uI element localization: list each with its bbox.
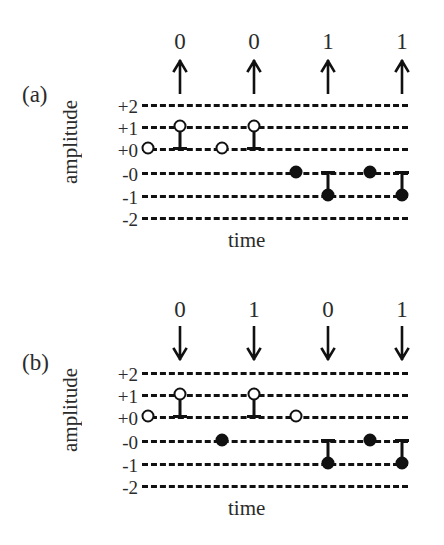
sample-dot	[216, 142, 229, 155]
panel-a-bit-row: 0011	[142, 30, 408, 54]
marker-stem-foot	[321, 171, 335, 174]
arrow-down-icon	[393, 326, 411, 362]
bit-value: 0	[174, 298, 186, 321]
panel-b-bit-row: 0101	[142, 298, 408, 322]
gridline-+2: +2	[142, 372, 408, 375]
gridline-+2: +2	[142, 104, 408, 107]
y-tick-label--1: -1	[122, 456, 138, 475]
arrow-up-icon	[319, 58, 337, 94]
arrow-down-icon	[245, 326, 263, 362]
y-tick-label-+2: +2	[118, 365, 138, 384]
sample-marker-filled	[396, 189, 409, 202]
panel-a-plot-area: +2+1+0-0-1-2	[142, 104, 408, 218]
sample-marker-open	[216, 142, 229, 155]
sample-dot	[142, 410, 155, 423]
arrow-down-icon	[171, 326, 189, 362]
sample-dot	[364, 166, 377, 179]
sample-dot	[174, 120, 187, 133]
gridline--1: -1	[142, 195, 408, 198]
bit-value: 1	[322, 30, 334, 53]
sample-marker-open	[290, 410, 303, 423]
gridline--1: -1	[142, 463, 408, 466]
y-tick-label-+2: +2	[118, 97, 138, 116]
arrow-down-icon	[319, 326, 337, 362]
marker-stem-foot	[247, 147, 261, 150]
y-tick-label--1: -1	[122, 188, 138, 207]
bit-value: 1	[396, 30, 408, 53]
marker-stem-foot	[321, 439, 335, 442]
sample-dot	[290, 410, 303, 423]
sample-marker-open	[248, 388, 261, 401]
sample-marker-open	[142, 410, 155, 423]
sample-marker-filled	[322, 457, 335, 470]
panel-a: (a) amplitude time 0011 +2+1+0-0-1-2	[0, 0, 444, 272]
panel-a-x-axis-title: time	[228, 228, 265, 253]
bit-value: 0	[248, 30, 260, 53]
arrow-up-icon	[171, 58, 189, 94]
sample-marker-filled	[322, 189, 335, 202]
sample-dot	[396, 189, 409, 202]
arrow-up-icon	[393, 58, 411, 94]
y-tick-label-+1: +1	[118, 387, 138, 406]
bit-value: 0	[322, 298, 334, 321]
marker-stem-foot	[395, 171, 409, 174]
sample-marker-filled	[290, 166, 303, 179]
sample-marker-open	[248, 120, 261, 133]
sample-dot	[322, 457, 335, 470]
sample-dot	[322, 189, 335, 202]
marker-stem-foot	[173, 415, 187, 418]
panel-b-y-axis-title: amplitude	[58, 368, 83, 452]
panel-b-arrow-row	[142, 326, 408, 364]
y-tick-label--0: -0	[122, 165, 138, 184]
sample-marker-filled	[396, 457, 409, 470]
sample-marker-open	[142, 142, 155, 155]
panel-b-plot-area: +2+1+0-0-1-2	[142, 372, 408, 486]
gridline--2: -2	[142, 485, 408, 488]
marker-stem-foot	[395, 439, 409, 442]
marker-stem-foot	[247, 415, 261, 418]
sample-marker-open	[174, 388, 187, 401]
sample-marker-filled	[216, 434, 229, 447]
marker-stem-foot	[173, 147, 187, 150]
sample-dot	[290, 166, 303, 179]
sample-dot	[174, 388, 187, 401]
y-tick-label--2: -2	[122, 478, 138, 497]
panel-a-arrow-row	[142, 58, 408, 96]
y-tick-label--2: -2	[122, 210, 138, 229]
bit-value: 1	[396, 298, 408, 321]
panel-b-label: (b)	[22, 350, 49, 376]
sample-dot	[364, 434, 377, 447]
y-tick-label-+0: +0	[118, 141, 138, 160]
sample-dot	[396, 457, 409, 470]
sample-dot	[248, 388, 261, 401]
sample-dot	[142, 142, 155, 155]
panel-b-x-axis-title: time	[228, 496, 265, 521]
panel-a-y-axis-title: amplitude	[58, 100, 83, 184]
panel-a-label: (a)	[22, 82, 48, 108]
panel-b: (b) amplitude time 0101 +2+1+0-0-1-2	[0, 272, 444, 545]
bit-value: 1	[248, 298, 260, 321]
sample-dot	[216, 434, 229, 447]
y-tick-label-+1: +1	[118, 119, 138, 138]
sample-marker-filled	[364, 166, 377, 179]
y-tick-label-+0: +0	[118, 409, 138, 428]
sample-marker-filled	[364, 434, 377, 447]
bit-value: 0	[174, 30, 186, 53]
y-tick-label--0: -0	[122, 433, 138, 452]
gridline--2: -2	[142, 217, 408, 220]
sample-dot	[248, 120, 261, 133]
arrow-up-icon	[245, 58, 263, 94]
sample-marker-open	[174, 120, 187, 133]
